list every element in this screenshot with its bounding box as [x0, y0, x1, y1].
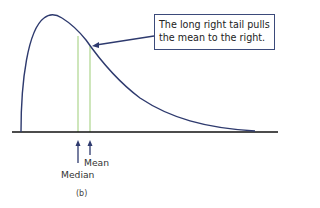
- median-label: Median: [61, 169, 94, 180]
- callout-line-2: the mean to the right.: [159, 31, 274, 44]
- callout-line-1: The long right tail pulls: [159, 18, 274, 31]
- callout-box: The long right tail pulls the mean to th…: [154, 14, 275, 50]
- mean-arrow-icon: [88, 140, 93, 146]
- figure-caption: (b): [76, 189, 87, 198]
- callout-pointer-line: [96, 36, 154, 45]
- callout-pointer-arrowhead: [92, 42, 99, 48]
- median-arrow-icon: [76, 140, 81, 146]
- mean-label: Mean: [84, 157, 109, 168]
